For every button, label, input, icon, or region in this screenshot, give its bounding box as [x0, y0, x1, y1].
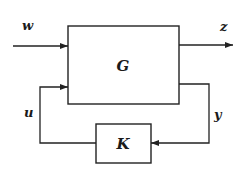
controller-label: K: [115, 135, 130, 153]
u-label: u: [24, 105, 33, 120]
w-label: w: [22, 18, 34, 33]
plant-label: G: [117, 57, 130, 75]
y-label: y: [213, 107, 223, 122]
block-diagram: G K w z y u: [0, 0, 246, 171]
z-label: z: [219, 19, 228, 34]
